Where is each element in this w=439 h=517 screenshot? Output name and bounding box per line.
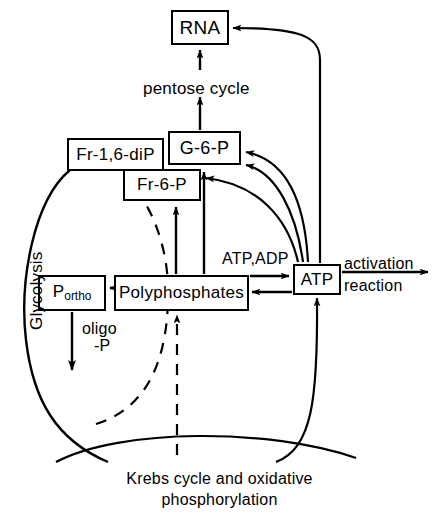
label-krebs-line1: Krebs cycle and oxidative bbox=[0, 470, 439, 488]
label-oligo-p-line1: oligo bbox=[82, 320, 117, 338]
label-atp-adp: ATP,ADP bbox=[222, 250, 289, 268]
label-reaction: reaction bbox=[344, 277, 403, 295]
node-p-ortho-symbol: P bbox=[53, 282, 65, 301]
node-p-ortho[interactable]: Portho bbox=[38, 275, 106, 311]
label-activation: activation bbox=[344, 255, 414, 273]
node-fr-1-6-dip[interactable]: Fr-1,6-diP bbox=[67, 138, 164, 171]
node-rna[interactable]: RNA bbox=[171, 10, 229, 45]
node-atp-label: ATP bbox=[301, 270, 334, 290]
node-polyphosphates[interactable]: Polyphosphates bbox=[114, 275, 249, 311]
label-oligo-p-line2: -P bbox=[94, 337, 110, 355]
label-pentose-cycle: pentose cycle bbox=[143, 79, 250, 99]
node-polyphosphates-label: Polyphosphates bbox=[119, 283, 244, 303]
node-fr-6-p-label: Fr-6-P bbox=[137, 175, 187, 195]
edge-atp-rna bbox=[233, 28, 320, 263]
pathway-diagram: RNA Fr-1,6-diP G-6-P Fr-6-P Portho Polyp… bbox=[0, 0, 439, 517]
node-g-6-p[interactable]: G-6-P bbox=[168, 131, 241, 165]
node-p-ortho-label: Portho bbox=[53, 282, 92, 303]
node-g-6-p-label: G-6-P bbox=[180, 138, 230, 159]
node-rna-label: RNA bbox=[179, 17, 220, 39]
node-p-ortho-subscript: ortho bbox=[64, 290, 91, 304]
label-glycolysis: Glycolysis bbox=[27, 251, 47, 330]
node-atp[interactable]: ATP bbox=[293, 264, 341, 295]
edge-krebs-to-atp bbox=[276, 298, 317, 462]
node-fr-1-6-dip-label: Fr-1,6-diP bbox=[76, 145, 155, 165]
node-fr-6-p[interactable]: Fr-6-P bbox=[123, 169, 201, 201]
label-krebs-line2: phosphorylation bbox=[0, 491, 439, 509]
